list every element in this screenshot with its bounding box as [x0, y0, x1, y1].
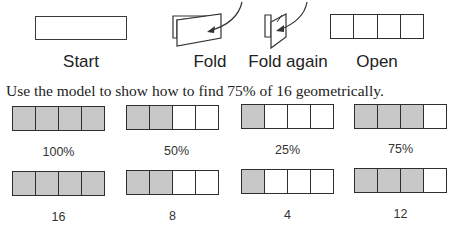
shaded-cell [13, 107, 36, 130]
value-bar-4 [241, 169, 334, 194]
start-strip [35, 16, 127, 40]
shaded-cell [36, 107, 59, 130]
strip-section [401, 15, 423, 38]
percent-label-50: 50% [130, 144, 223, 158]
shaded-cell [401, 105, 424, 128]
value-label-16: 16 [12, 210, 105, 224]
strip-section [331, 15, 354, 38]
percent-bar-75 [354, 104, 447, 129]
instruction-text: Use the model to show how to find 75% of… [6, 82, 384, 100]
step-label-open: Open [345, 52, 409, 72]
shaded-cell [59, 107, 82, 130]
shaded-cell [150, 106, 173, 129]
empty-cell [265, 170, 288, 193]
empty-cell [196, 106, 218, 129]
fold-twice-icon [255, 0, 335, 50]
shaded-cell [82, 172, 104, 195]
empty-cell [424, 169, 446, 192]
empty-cell [265, 105, 288, 128]
shaded-cell [378, 105, 401, 128]
empty-cell [288, 105, 311, 128]
strip-section [378, 15, 401, 38]
percent-label-100: 100% [12, 145, 105, 159]
empty-cell [288, 170, 311, 193]
shaded-cell [242, 170, 265, 193]
value-label-8: 8 [126, 209, 219, 223]
value-label-4: 4 [241, 208, 334, 222]
value-label-12: 12 [354, 207, 447, 221]
empty-cell [424, 105, 446, 128]
value-bar-8 [126, 170, 219, 195]
fold-once-icon [165, 0, 250, 50]
shaded-cell [401, 169, 424, 192]
value-bar-12 [354, 168, 447, 193]
shaded-cell [82, 107, 104, 130]
shaded-cell [355, 169, 378, 192]
shaded-cell [242, 105, 265, 128]
percent-bar-25 [241, 104, 334, 129]
step-label-start: Start [45, 52, 117, 72]
shaded-cell [127, 171, 150, 194]
shaded-cell [150, 171, 173, 194]
step-label-fold-again: Fold again [238, 52, 338, 72]
empty-cell [196, 171, 218, 194]
empty-cell [173, 106, 196, 129]
shaded-cell [36, 172, 59, 195]
shaded-cell [127, 106, 150, 129]
empty-cell [311, 170, 333, 193]
strip-section [354, 15, 377, 38]
shaded-cell [378, 169, 401, 192]
empty-cell [173, 171, 196, 194]
shaded-cell [59, 172, 82, 195]
percent-label-75: 75% [354, 142, 447, 156]
empty-cell [311, 105, 333, 128]
percent-label-25: 25% [241, 143, 334, 157]
percent-bar-50 [126, 105, 219, 130]
percent-bar-100 [12, 106, 105, 131]
shaded-cell [355, 105, 378, 128]
value-bar-16 [12, 171, 105, 196]
shaded-cell [13, 172, 36, 195]
step-label-fold: Fold [185, 52, 235, 72]
open-strip [330, 14, 424, 39]
